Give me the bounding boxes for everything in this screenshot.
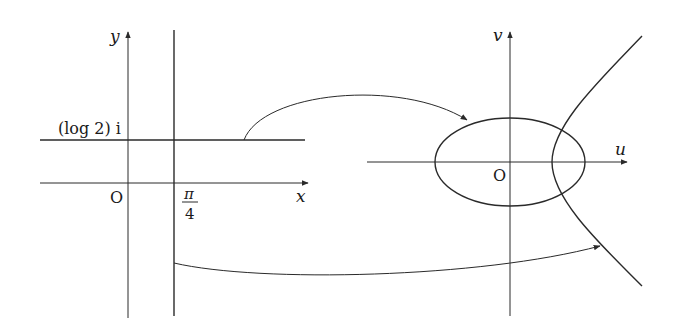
x-axis-label: x (296, 186, 306, 206)
mapping-arrow-to-hyperbola (174, 246, 600, 275)
v-axis-label: v (493, 25, 503, 45)
mapping-arrow-to-ellipse (244, 95, 467, 140)
svg-text:4: 4 (185, 205, 195, 223)
origin-label-right: O (493, 166, 506, 185)
left-plane: y x O (log 2) i π 4 (40, 26, 308, 318)
hyperbola-image (552, 36, 642, 286)
pi-over-4-label: π 4 (182, 185, 198, 223)
origin-label-left: O (110, 188, 123, 207)
y-axis-label: y (109, 26, 120, 46)
u-axis-label: u (615, 139, 626, 159)
svg-text:π: π (183, 185, 195, 203)
log2-i-label: (log 2) i (58, 119, 121, 138)
conformal-map-diagram: y x O (log 2) i π 4 v u O (0, 0, 679, 332)
